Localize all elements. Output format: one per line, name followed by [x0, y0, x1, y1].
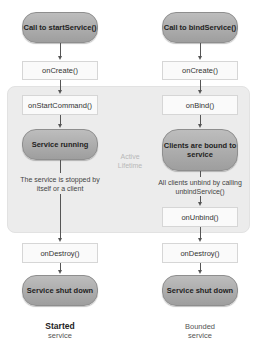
started-service-caption: Started service	[20, 322, 100, 340]
arrow-down-icon	[58, 90, 62, 94]
connector-line	[60, 194, 61, 239]
on-create-box: onCreate()	[22, 61, 98, 80]
arrow-down-icon	[198, 202, 202, 206]
unbind-note: All clients unbind by calling unbindServ…	[146, 178, 254, 196]
arrow-down-icon	[198, 124, 202, 128]
arrow-down-icon	[58, 270, 62, 274]
caption-title: Bounded	[160, 322, 240, 331]
caption-title: Started	[20, 322, 100, 331]
caption-sub: service	[188, 331, 212, 340]
call-start-service-pill: Call to startService()	[22, 12, 98, 43]
on-bind-box: onBind()	[162, 95, 238, 115]
connector-line	[60, 160, 61, 173]
connector-line	[200, 43, 201, 57]
stop-note: The service is stopped by itself or a cl…	[14, 175, 106, 193]
caption-sub: service	[48, 331, 72, 340]
connector-line	[200, 171, 201, 177]
clients-bound-pill: Clients are bound to service	[162, 129, 238, 171]
on-unbind-box: onUnbind()	[162, 207, 238, 227]
connector-line	[60, 43, 61, 57]
arrow-down-icon	[198, 270, 202, 274]
on-start-command-box: onStartCommand()	[22, 95, 98, 115]
bounded-service-caption: Bounded service	[160, 322, 240, 340]
call-bind-service-pill: Call to bindService()	[162, 12, 238, 43]
arrow-down-icon	[198, 238, 202, 242]
on-destroy-box: onDestroy()	[162, 243, 238, 263]
active-lifetime-label: Active Lifetime	[112, 152, 148, 170]
arrow-down-icon	[198, 56, 202, 60]
on-destroy-box: onDestroy()	[22, 243, 98, 263]
arrow-down-icon	[58, 124, 62, 128]
service-shut-down-pill: Service shut down	[22, 275, 98, 306]
arrow-down-icon	[58, 238, 62, 242]
service-running-pill: Service running	[22, 129, 98, 160]
arrow-down-icon	[198, 90, 202, 94]
service-shut-down-pill: Service shut down	[162, 275, 238, 306]
on-create-box: onCreate()	[162, 61, 238, 80]
arrow-down-icon	[58, 56, 62, 60]
